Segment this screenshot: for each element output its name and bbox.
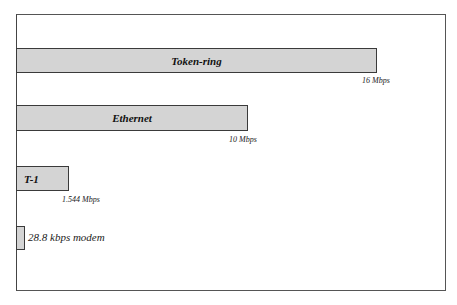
value-label-token-ring: 16 Mbps [362, 76, 390, 85]
bar-label-token-ring: Token-ring [171, 55, 221, 67]
bar-t1: T-1 [16, 166, 69, 191]
bar-label-t1: T-1 [24, 173, 39, 185]
bar-label-ethernet: Ethernet [112, 112, 152, 124]
bar-modem [16, 226, 25, 250]
bar-token-ring: Token-ring [16, 48, 377, 73]
bar-ethernet: Ethernet [16, 105, 248, 131]
value-label-t1: 1.544 Mbps [62, 195, 100, 204]
label-modem: 28.8 kbps modem [28, 231, 105, 243]
value-label-ethernet: 10 Mbps [229, 135, 257, 144]
